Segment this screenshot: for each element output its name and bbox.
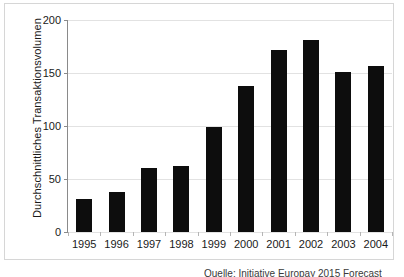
bar-chart-figure: Durchschnittliches Transaktionsvolumen 0… (0, 0, 404, 277)
x-tick-mark (230, 232, 231, 236)
x-tick-label: 1998 (169, 238, 193, 250)
x-tick-label: 2001 (266, 238, 290, 250)
bar (238, 86, 254, 232)
x-tick-label: 1996 (104, 238, 128, 250)
y-axis-title: Durchschnittliches Transaktionsvolumen (31, 8, 43, 228)
y-tick-label: 200 (43, 14, 61, 26)
x-tick-label: 2003 (331, 238, 355, 250)
y-tick-mark (64, 179, 68, 180)
y-tick-mark (64, 126, 68, 127)
y-tick-label: 150 (43, 67, 61, 79)
x-tick-mark (68, 232, 69, 236)
bar (271, 50, 287, 232)
y-tick-label: 0 (55, 226, 61, 238)
x-tick-mark (198, 232, 199, 236)
bar (141, 168, 157, 232)
bar (368, 66, 384, 232)
x-tick-mark (165, 232, 166, 236)
x-tick-mark (360, 232, 361, 236)
x-tick-mark (100, 232, 101, 236)
bar (303, 40, 319, 232)
x-tick-mark (262, 232, 263, 236)
x-tick-label: 1999 (202, 238, 226, 250)
x-tick-mark (327, 232, 328, 236)
bar (206, 127, 222, 232)
y-tick-mark (64, 20, 68, 21)
plot-area: 050100150200 (68, 20, 392, 232)
x-tick-label: 2000 (234, 238, 258, 250)
bar (109, 192, 125, 232)
chart-frame: Durchschnittliches Transaktionsvolumen 0… (4, 3, 394, 260)
x-tick-label: 2002 (299, 238, 323, 250)
x-tick-mark (295, 232, 296, 236)
x-tick-mark (133, 232, 134, 236)
bar (335, 72, 351, 232)
x-tick-mark (392, 232, 393, 236)
y-tick-mark (64, 73, 68, 74)
x-tick-label: 2004 (364, 238, 388, 250)
x-tick-label: 1997 (137, 238, 161, 250)
bar (76, 199, 92, 232)
bar (173, 166, 189, 232)
y-tick-label: 100 (43, 120, 61, 132)
gridline (68, 20, 392, 21)
x-tick-label: 1995 (72, 238, 96, 250)
y-tick-label: 50 (49, 173, 61, 185)
source-note: Quelle: Initiative Europay 2015 Forecast (204, 268, 382, 277)
